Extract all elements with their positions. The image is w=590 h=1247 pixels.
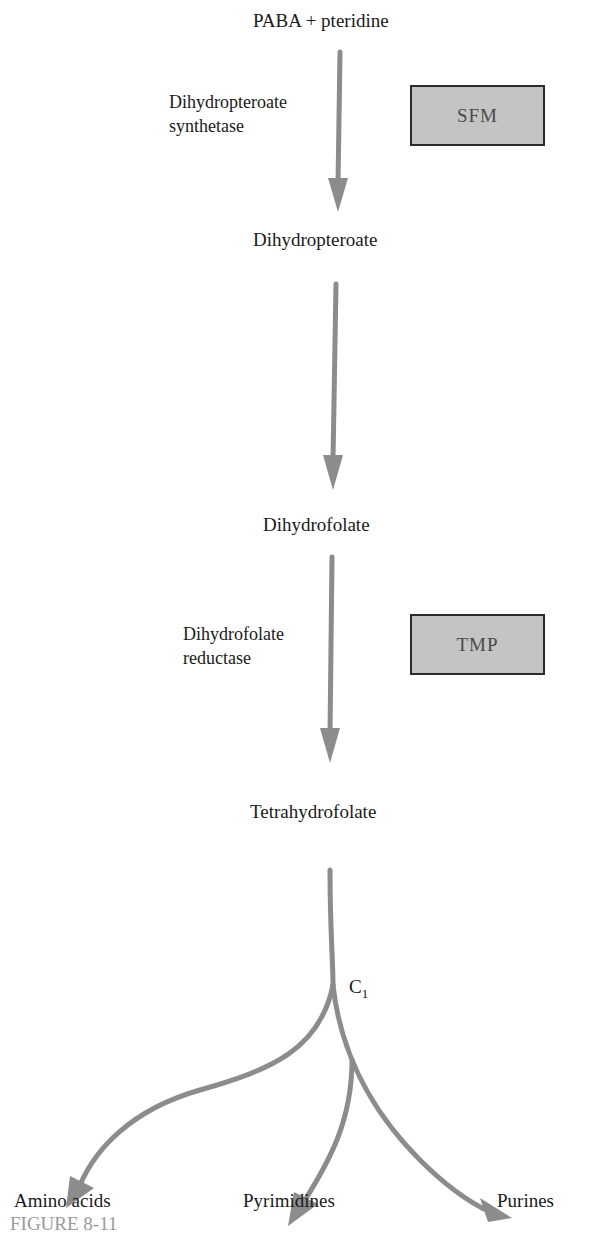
output-amino-acids: Amino acids <box>14 1191 111 1210</box>
inhibitor-box-tmp: TMP <box>410 614 545 675</box>
enzyme-label-dihydropteroate-synthetase: Dihydropteroate synthetase <box>169 90 287 138</box>
substrate-label: PABA + pteridine <box>253 11 389 30</box>
output-pyrimidines: Pyrimidines <box>243 1191 335 1210</box>
output-purines: Purines <box>497 1191 554 1210</box>
product-tetrahydrofolate: Tetrahydrofolate <box>250 802 376 821</box>
inhibitor-box-sfm: SFM <box>410 85 545 146</box>
enzyme-name-line1: Dihydropteroate <box>169 90 287 114</box>
carrier-c1-label: C1 <box>349 976 368 1002</box>
figure-caption: FIGURE 8-11 <box>10 1213 118 1235</box>
arrowhead-3 <box>320 728 340 763</box>
intermediate-dihydropteroate: Dihydropteroate <box>253 230 378 249</box>
arrowhead-1 <box>328 178 348 212</box>
arrowhead-2 <box>323 455 343 490</box>
intermediate-dihydrofolate: Dihydrofolate <box>263 515 370 534</box>
carrier-symbol: C <box>349 976 362 997</box>
enzyme-name-line2: reductase <box>183 646 284 670</box>
carrier-subscript: 1 <box>362 986 369 1001</box>
enzyme-label-dihydrofolate-reductase: Dihydrofolate reductase <box>183 622 284 670</box>
enzyme-name-line1: Dihydrofolate <box>183 622 284 646</box>
enzyme-name-line2: synthetase <box>169 114 287 138</box>
